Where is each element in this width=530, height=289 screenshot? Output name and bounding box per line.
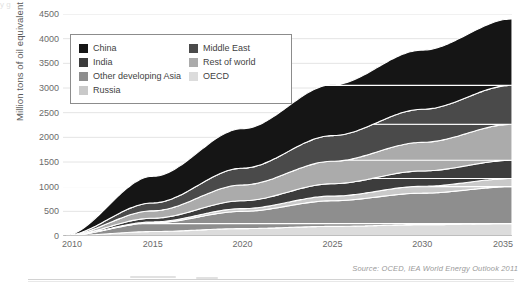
footer-rule [28, 279, 514, 280]
legend-item-label: Other developing Asia [93, 72, 181, 81]
legend-item-label: Russia [93, 86, 121, 95]
footer-rule-secondary [28, 281, 514, 282]
legend-swatch-icon [79, 86, 88, 95]
y-tick-label: 3500 [19, 59, 59, 68]
legend-swatch-icon [79, 58, 88, 67]
page-smudge-2 [196, 277, 218, 279]
legend-swatch-icon [79, 72, 88, 81]
legend-item[interactable]: China [79, 44, 189, 53]
source-note: Source: OCED, IEA World Energy Outlook 2… [352, 264, 518, 273]
legend-item-label: Rest of world [203, 58, 256, 67]
legend-item[interactable]: Other developing Asia [79, 72, 189, 81]
legend-item[interactable]: India [79, 58, 189, 67]
y-tick-label: 2500 [19, 108, 59, 117]
legend-item-label: OECD [203, 72, 229, 81]
legend-item[interactable]: Rest of world [189, 58, 293, 67]
legend-item-label: India [93, 58, 113, 67]
top-remnant-text: y g [0, 1, 11, 9]
y-tick-label: 1000 [19, 182, 59, 191]
legend-swatch-icon [79, 44, 88, 53]
legend-swatch-icon [189, 72, 198, 81]
legend-item-label: Middle East [203, 44, 250, 53]
legend-swatch-icon [189, 58, 198, 67]
y-tick-label: 4500 [19, 10, 59, 19]
x-tick-label: 2030 [399, 239, 445, 249]
page-smudge-1 [130, 276, 176, 278]
y-tick-label: 500 [19, 207, 59, 216]
y-tick-label: 2000 [19, 133, 59, 142]
y-axis-tick-labels: 050010001500200025003000350040004500 [15, 14, 59, 236]
y-tick-label: 4000 [19, 34, 59, 43]
x-tick-label: 2015 [130, 239, 176, 249]
top-text-remnant: y g [0, 0, 530, 9]
legend-swatch-icon [189, 44, 198, 53]
x-tick-label: 2010 [49, 239, 95, 249]
x-tick-label: 2035 [480, 239, 526, 249]
legend-item[interactable]: Russia [79, 86, 189, 95]
x-tick-label: 2020 [220, 239, 266, 249]
y-tick-label: 3000 [19, 84, 59, 93]
chart-figure: y g Million tons of oil equivalent 05001… [0, 0, 530, 289]
x-axis-tick-labels: 201020152020202520302035 [63, 239, 512, 253]
y-tick-label: 1500 [19, 158, 59, 167]
legend-item[interactable]: OECD [189, 72, 293, 81]
legend-item[interactable]: Middle East [189, 44, 293, 53]
legend-item-label: China [93, 44, 117, 53]
chart-legend: ChinaMiddle EastIndiaRest of worldOther … [70, 34, 292, 104]
x-tick-label: 2025 [309, 239, 355, 249]
